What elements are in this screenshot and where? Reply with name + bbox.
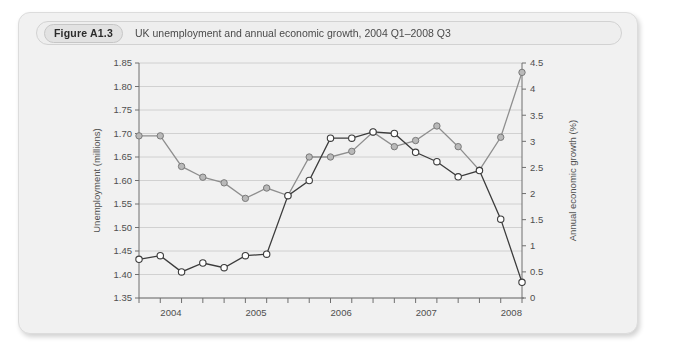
x-axis-tick-label: 2008 — [501, 307, 522, 318]
data-point — [391, 143, 397, 149]
data-point — [200, 260, 206, 266]
figure-caption-bar: Figure A1.3 UK unemployment and annual e… — [36, 21, 622, 45]
data-point — [412, 149, 418, 155]
data-point — [157, 253, 163, 259]
x-axis-tick-label: 2004 — [160, 307, 181, 318]
y-axis-left-tick-label: 1.80 — [114, 81, 133, 92]
data-point — [178, 269, 184, 275]
y-axis-left-tick-label: 1.75 — [114, 104, 133, 115]
data-point — [519, 69, 525, 75]
data-point — [157, 133, 163, 139]
y-axis-left-tick-label: 1.70 — [114, 128, 133, 139]
data-point — [476, 167, 482, 173]
y-axis-left-tick-label: 1.55 — [114, 198, 133, 209]
data-point — [455, 174, 461, 180]
data-point — [263, 251, 269, 257]
y-axis-right-tick-label: 1 — [530, 240, 535, 251]
data-point — [327, 154, 333, 160]
x-axis-tick-label: 2007 — [416, 307, 437, 318]
data-point — [370, 129, 376, 135]
y-axis-right-tick-label: 2 — [530, 188, 535, 199]
data-point — [498, 216, 504, 222]
data-point — [349, 148, 355, 154]
data-point — [349, 135, 355, 141]
figure-panel: Figure A1.3 UK unemployment and annual e… — [18, 12, 638, 334]
y-axis-left-tick-label: 1.35 — [114, 292, 133, 303]
y-axis-left-tick-label: 1.60 — [114, 175, 133, 186]
data-point — [263, 185, 269, 191]
data-point — [519, 279, 525, 285]
data-point — [391, 130, 397, 136]
data-point — [136, 133, 142, 139]
y-axis-left-tick-label: 1.85 — [114, 57, 133, 68]
y-axis-left-title: Unemployment (millions) — [91, 128, 102, 233]
y-axis-right-tick-label: 0.5 — [530, 266, 543, 277]
figure-caption-text: UK unemployment and annual economic grow… — [135, 27, 451, 39]
data-point — [242, 195, 248, 201]
y-axis-left-tick-label: 1.45 — [114, 245, 133, 256]
y-axis-right-tick-label: 3.5 — [530, 110, 543, 121]
data-point — [221, 180, 227, 186]
data-point — [434, 159, 440, 165]
y-axis-right-tick-label: 2.5 — [530, 162, 543, 173]
y-axis-right-tick-label: 4 — [530, 83, 535, 94]
data-point — [455, 143, 461, 149]
data-point — [221, 265, 227, 271]
data-point — [178, 163, 184, 169]
line-chart: 1.351.401.451.501.551.601.651.701.751.80… — [36, 49, 622, 327]
y-axis-left-tick-label: 1.65 — [114, 151, 133, 162]
chart-plot-area: 1.351.401.451.501.551.601.651.701.751.80… — [36, 49, 622, 327]
data-point — [136, 256, 142, 262]
data-point — [412, 137, 418, 143]
data-point — [498, 134, 504, 140]
y-axis-right-tick-label: 0 — [530, 292, 535, 303]
data-point — [200, 174, 206, 180]
data-point — [306, 154, 312, 160]
data-point — [242, 253, 248, 259]
y-axis-right-tick-label: 4.5 — [530, 57, 543, 68]
data-point — [434, 123, 440, 129]
y-axis-left-tick-label: 1.50 — [114, 222, 133, 233]
y-axis-right-tick-label: 3 — [530, 136, 535, 147]
data-point — [327, 135, 333, 141]
x-axis-tick-label: 2006 — [331, 307, 352, 318]
data-point — [285, 192, 291, 198]
x-axis-tick-label: 2005 — [245, 307, 266, 318]
y-axis-right-tick-label: 1.5 — [530, 214, 543, 225]
figure-number-badge: Figure A1.3 — [44, 24, 123, 43]
data-point — [306, 177, 312, 183]
y-axis-left-tick-label: 1.40 — [114, 269, 133, 280]
y-axis-right-title: Annual economic growth (%) — [567, 120, 578, 241]
